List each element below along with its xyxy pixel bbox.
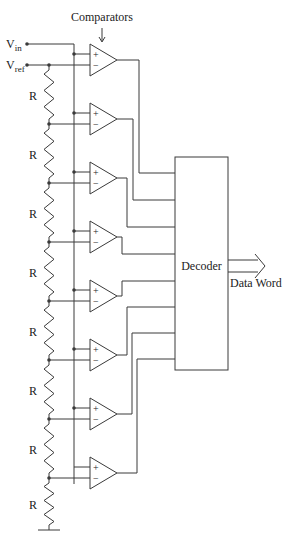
plus-sign: + [93, 344, 99, 355]
resistor-zigzag [44, 65, 54, 124]
comparator-output-wire [117, 237, 175, 254]
plus-sign: + [93, 108, 99, 119]
vin-bus-wire [27, 44, 74, 484]
comparator-2: +− [49, 103, 175, 200]
comparator-7: +− [49, 333, 175, 430]
vin-junction-dot [72, 52, 76, 56]
comparator-6: +− [49, 307, 175, 371]
vin-label: Vin [6, 37, 22, 53]
minus-sign: − [93, 414, 99, 425]
resistor-label: R [29, 384, 37, 398]
vref-label: Vref [6, 58, 25, 74]
resistor-zigzag [44, 301, 54, 360]
resistor-label: R [29, 89, 37, 103]
resistor-zigzag [44, 183, 54, 242]
vin-junction-dot [72, 111, 76, 115]
comparator-4: +− [49, 221, 175, 254]
minus-sign: − [93, 60, 99, 71]
comparator-output-wire [117, 333, 175, 414]
resistor-8: R [29, 478, 54, 530]
comparators-label: Comparators [71, 10, 133, 24]
resistor-6: R [29, 360, 54, 419]
resistor-ladder: RRRRRRRR [29, 63, 60, 530]
plus-sign: + [93, 49, 99, 60]
resistor-zigzag [44, 242, 54, 301]
decoder-label: Decoder [181, 259, 222, 273]
flash-adc-diagram: ComparatorsVinVrefRRRRRRRR+−+−+−+−+−+−+−… [0, 0, 284, 539]
comparator-3: +− [49, 162, 175, 227]
vin-junction-dot [72, 406, 76, 410]
resistor-4: R [29, 242, 54, 301]
resistor-3: R [29, 183, 54, 242]
comparator-1: +− [49, 44, 175, 173]
vin-junction-dot [72, 288, 76, 292]
comparator-output-wire [117, 307, 175, 355]
comparator-output-wire [117, 119, 175, 200]
plus-sign: + [93, 167, 99, 178]
data-word-output: Data Word [228, 254, 282, 290]
comparator-output-wire [117, 60, 175, 173]
plus-sign: + [93, 462, 99, 473]
vref-input: Vref [6, 58, 49, 74]
vin-junction-dot [72, 170, 76, 174]
resistor-label: R [29, 148, 37, 162]
minus-sign: − [93, 473, 99, 484]
resistor-zigzag [44, 360, 54, 419]
resistor-label: R [29, 325, 37, 339]
decoder-block: Decoder [175, 157, 228, 370]
comparator-output-wire [117, 281, 175, 296]
resistor-5: R [29, 301, 54, 360]
comparator-output-wire [117, 178, 175, 227]
minus-sign: − [93, 237, 99, 248]
comparator-bank: +−+−+−+−+−+−+−+− [49, 44, 175, 489]
vin-junction-dot [72, 347, 76, 351]
plus-sign: + [93, 403, 99, 414]
resistor-2: R [29, 124, 54, 183]
comparator-output-wire [117, 359, 175, 473]
resistor-zigzag [44, 419, 54, 478]
minus-sign: − [93, 296, 99, 307]
data-word-label: Data Word [230, 276, 282, 290]
resistor-label: R [29, 207, 37, 221]
resistor-zigzag [44, 478, 54, 530]
resistor-7: R [29, 419, 54, 478]
vin-input: Vin [6, 37, 74, 484]
minus-sign: − [93, 119, 99, 130]
resistor-zigzag [44, 124, 54, 183]
plus-sign: + [93, 285, 99, 296]
minus-sign: − [93, 178, 99, 189]
comparator-8: +− [49, 359, 175, 489]
circuit-schematic: ComparatorsVinVrefRRRRRRRR+−+−+−+−+−+−+−… [0, 0, 284, 539]
plus-sign: + [93, 226, 99, 237]
minus-sign: − [93, 355, 99, 366]
output-arrow-icon [255, 254, 265, 278]
vin-junction-dot [72, 229, 76, 233]
resistor-label: R [29, 498, 37, 512]
resistor-label: R [29, 443, 37, 457]
resistor-label: R [29, 266, 37, 280]
resistor-1: R [29, 65, 54, 124]
